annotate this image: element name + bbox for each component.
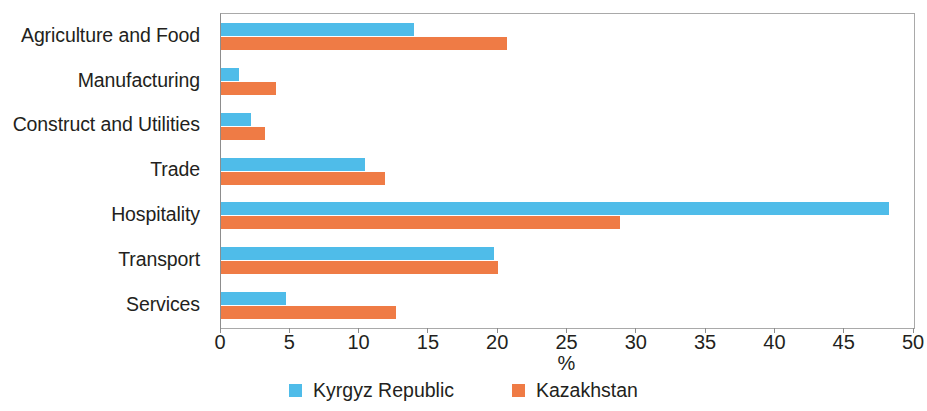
plot-area — [220, 13, 915, 329]
x-axis-tick-label: 5 — [284, 332, 295, 352]
bar-kyrgyz-republic — [221, 113, 251, 126]
bar-kyrgyz-republic — [221, 23, 414, 36]
bar-row — [221, 14, 914, 59]
bar-kyrgyz-republic — [221, 68, 239, 81]
category-label: Agriculture and Food — [0, 13, 208, 58]
chart-legend: Kyrgyz RepublicKazakhstan — [0, 381, 927, 401]
category-label: Manufacturing — [0, 58, 208, 103]
x-axis-tick-label: 10 — [347, 332, 369, 352]
category-label: Services — [0, 282, 208, 327]
bar-kazakhstan — [221, 82, 276, 95]
category-label: Hospitality — [0, 192, 208, 237]
legend-item[interactable]: Kazakhstan — [512, 381, 638, 401]
legend-label: Kyrgyz Republic — [313, 381, 454, 401]
legend-item[interactable]: Kyrgyz Republic — [289, 381, 454, 401]
bar-row — [221, 104, 914, 149]
category-label: Transport — [0, 237, 208, 282]
bar-kazakhstan — [221, 261, 498, 274]
x-axis-tick-label: 25 — [555, 332, 577, 352]
bar-kazakhstan — [221, 306, 396, 319]
bar-kazakhstan — [221, 172, 385, 185]
category-axis-labels: Agriculture and FoodManufacturingConstru… — [0, 13, 208, 327]
bar-kazakhstan — [221, 37, 507, 50]
bar-row — [221, 193, 914, 238]
bar-chart: Agriculture and FoodManufacturingConstru… — [0, 0, 927, 411]
x-axis-tick-label: 45 — [833, 332, 855, 352]
x-axis-tick-label: 40 — [763, 332, 785, 352]
bar-row — [221, 59, 914, 104]
bar-row — [221, 238, 914, 283]
legend-swatch-icon — [512, 384, 525, 397]
bar-kyrgyz-republic — [221, 292, 286, 305]
bar-rows — [221, 14, 914, 328]
category-label: Construct and Utilities — [0, 103, 208, 148]
category-label: Trade — [0, 148, 208, 193]
bar-row — [221, 149, 914, 194]
x-axis-tick-label: 20 — [486, 332, 508, 352]
bar-kyrgyz-republic — [221, 202, 889, 215]
legend-label: Kazakhstan — [536, 381, 638, 401]
x-axis-tick-label: 35 — [694, 332, 716, 352]
x-axis-tick-label: 30 — [625, 332, 647, 352]
x-axis-tick-label: 0 — [214, 332, 225, 352]
x-axis-title: % — [220, 352, 913, 375]
x-axis-tick-label: 15 — [417, 332, 439, 352]
bar-kazakhstan — [221, 127, 265, 140]
bar-row — [221, 283, 914, 328]
legend-swatch-icon — [289, 384, 302, 397]
bar-kyrgyz-republic — [221, 158, 365, 171]
x-axis-tick-label: 50 — [902, 332, 924, 352]
bar-kazakhstan — [221, 216, 620, 229]
bar-kyrgyz-republic — [221, 247, 494, 260]
